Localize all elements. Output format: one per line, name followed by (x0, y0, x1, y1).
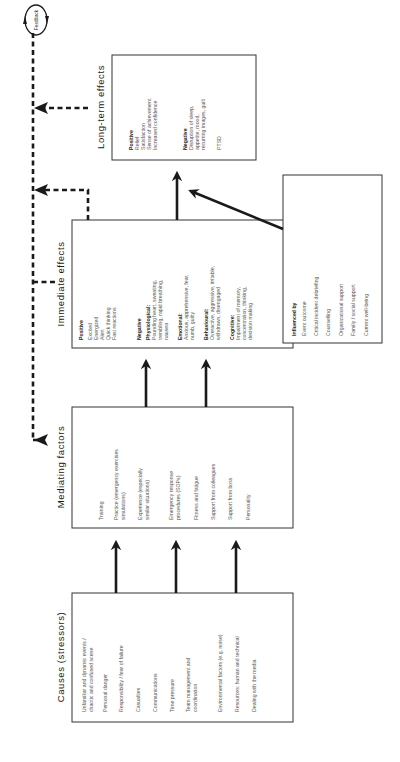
mediating-item: Fitness and fatigue (193, 476, 199, 520)
causes-item: Dealing with the media (251, 659, 257, 712)
immediate-title: Immediate effects (55, 241, 66, 326)
immediate-positive-item: Fast reactions (111, 307, 117, 340)
causes-item: coordination (192, 684, 198, 712)
causes-item: Time pressure (169, 679, 175, 712)
mediating-item: Support from boss (227, 477, 233, 520)
feedback-loop: Feedback (23, 5, 49, 35)
cycle-arrow-down-icon (45, 16, 49, 24)
longterm-ptsd: PTSD (216, 136, 222, 150)
mediating-item: Practice (emergency exercises (113, 449, 119, 520)
influenced-item: Organizational support (338, 283, 344, 336)
mediating-item: similar situations) (144, 480, 150, 520)
feedback-dash-immediate-upper (44, 190, 88, 220)
stress-model-diagram: Feedback Causes (stressors) Unfamiliar a… (0, 0, 400, 762)
influenced-item: Event outcome (301, 301, 307, 336)
influenced-item: Current well-being (363, 294, 369, 336)
longterm-title: Long-term effects (95, 65, 106, 149)
mediating-item: Emergency response (168, 471, 174, 520)
causes-item: Team management and (185, 657, 191, 712)
influenced-item: Critical incident debriefing (313, 276, 319, 336)
immediate-negative-heading: Negative (136, 318, 142, 340)
influenced-item: Counselling (325, 309, 331, 336)
cycle-arrow-up-icon (23, 16, 27, 24)
behavioural-item: withdrawn, disengaged (215, 287, 221, 340)
emotional-item: numb, guilty (189, 312, 195, 340)
mediating-box (72, 407, 293, 528)
mediating-item: Training (98, 501, 104, 520)
causes-item: Resources: human and technical (234, 636, 240, 712)
causes-item: chaotic and confused scene (88, 648, 94, 712)
mediating-item: Personality (245, 494, 251, 520)
influenced-item: Family / social support (350, 284, 356, 336)
causes-title: Causes (stressors) (55, 612, 66, 703)
arrows-mediating-to-immediate (146, 364, 206, 407)
mediating-item: Support from colleagues (210, 463, 216, 520)
feedback-label: Feedback (34, 9, 39, 30)
causes-item: Unfamiliar and dynamic events / (81, 638, 87, 712)
longterm-positive-item: Increased confidence (152, 101, 158, 150)
causes-item: Personal danger (102, 674, 108, 712)
arrows-causes-to-mediating (116, 545, 236, 593)
causes-item: Communications (152, 673, 158, 712)
mediating-item: procedures (SOPs) (175, 475, 181, 520)
arrowhead-left (34, 434, 48, 446)
mediating-title: Mediating factors (55, 426, 66, 509)
causes-item: Casualties (135, 687, 141, 712)
influenced-heading: Influenced by (291, 302, 297, 336)
immediate-positive-heading: Positive (78, 320, 84, 340)
mediating-item: simulations) (120, 492, 126, 520)
arrowhead-left (34, 102, 48, 114)
mediating-item: Experience (especially (137, 468, 143, 520)
cognitive-item: decision making (247, 303, 253, 340)
physiological-item: nausea (163, 323, 169, 340)
causes-item: Responsibility / fear of failure (118, 645, 124, 712)
longterm-negative-item: recurring images, guilt (200, 98, 206, 150)
causes-item: Environmental factors (e.g. noise) (217, 634, 223, 712)
